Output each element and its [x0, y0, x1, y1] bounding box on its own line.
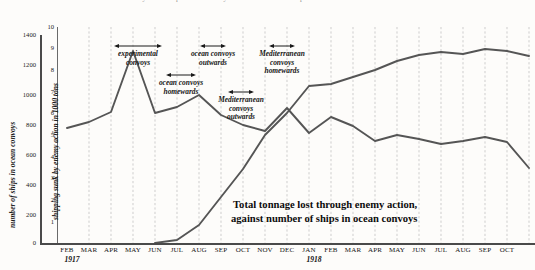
- annotation-line-3: outwards: [227, 112, 255, 121]
- annotation-line-1: ocean convoys: [191, 49, 235, 58]
- annotation-line-1: experimental: [118, 49, 158, 58]
- month-label-sep-1917: SEP: [215, 246, 228, 254]
- month-label-oct-1918: OCT: [500, 246, 514, 254]
- annotation-line-2: convoys: [270, 58, 294, 67]
- bleed-column-2: enemy cruiser squadrons a merry dance: [126, 0, 247, 2]
- bleed-column-3: protection cruisers. The Battle of th: [300, 0, 409, 2]
- month-label-dec-1917: DEC: [280, 246, 294, 254]
- span-arrow-mediterranean-convoys-outwards: [228, 89, 254, 95]
- annotation-mediterranean-convoys-homewards: Mediterranean convoys homewards: [250, 43, 314, 76]
- ships-tick-1000: 1000: [10, 92, 36, 99]
- chart-caption-line-1: Total tonnage lost through enemy action,: [233, 198, 417, 212]
- ships-axis-line: [40, 35, 42, 243]
- convoy-tonnage-chart: 1400 1200 1000 800 600 400 200 0 10 9 8 …: [0, 14, 535, 270]
- month-label-nov-1917: NOV: [257, 246, 273, 254]
- month-label-jul-1917: JUL: [171, 246, 184, 254]
- annotation-line-2: convoys: [229, 104, 253, 113]
- annotation-line-1: ocean convoys: [159, 78, 203, 87]
- annotation-line-3: homewards: [265, 66, 300, 75]
- left-axis-title: number of ships in ocean convoys: [9, 122, 17, 228]
- span-arrow-ocean-convoys-outwards: [200, 43, 226, 49]
- tons-tick-9: 9: [44, 45, 54, 52]
- month-label-jun-1918: JUN: [412, 246, 425, 254]
- month-label-jan-1918: JAN: [302, 246, 315, 254]
- month-label-oct-1917: OCT: [236, 246, 250, 254]
- tons-tick-8: 8: [44, 67, 54, 74]
- ships-tick-0: 0: [10, 240, 36, 247]
- x-axis-baseline: [40, 243, 535, 245]
- span-arrow-ocean-convoys-homewards: [166, 72, 196, 78]
- month-label-may-1917: MAY: [125, 246, 141, 254]
- month-label-mar-1917: MAR: [81, 246, 97, 254]
- span-arrow-experimental-convoys: [114, 43, 162, 49]
- annotation-line-2: convoys: [126, 58, 150, 67]
- month-label-jun-1917: JUN: [148, 246, 161, 254]
- chart-caption-line-2: against number of ships in ocean convoys: [231, 212, 417, 226]
- year-label-1917: 1917: [64, 255, 79, 264]
- month-label-jul-1918: JUL: [435, 246, 448, 254]
- month-label-aug-1917: AUG: [191, 246, 207, 254]
- page-bleed-text: has lost enemy cruiser squadrons a merry…: [0, 0, 535, 12]
- month-label-mar-1918: MAR: [345, 246, 361, 254]
- month-label-sep-1918: SEP: [479, 246, 492, 254]
- tons-tick-10: 10: [44, 24, 54, 31]
- annotation-line-2: outwards: [199, 58, 227, 67]
- month-label-may-1918: MAY: [389, 246, 405, 254]
- ships-tick-1400: 1400: [10, 32, 36, 39]
- month-label-aug-1918: AUG: [455, 246, 471, 254]
- bleed-column-1: has lost: [2, 0, 25, 2]
- annotation-ocean-convoys-outwards: ocean convoys outwards: [184, 43, 242, 67]
- year-label-1918: 1918: [306, 255, 321, 264]
- month-axis: FEB MAR APR MAY JUN JUL AUG SEP OCT NOV …: [58, 246, 535, 268]
- ships-tick-1200: 1200: [10, 62, 36, 69]
- annotation-ocean-convoys-homewards: ocean convoys homewards: [148, 72, 214, 96]
- month-label-apr-1917: APR: [104, 246, 118, 254]
- annotation-line-2: homewards: [164, 87, 199, 96]
- annotation-mediterranean-convoys-outwards: Mediterranean convoys outwards: [210, 89, 272, 122]
- month-label-feb-1917: FEB: [60, 246, 73, 254]
- month-label-apr-1918: APR: [368, 246, 382, 254]
- annotation-line-1: Mediterranean: [259, 49, 305, 58]
- span-arrow-mediterranean-convoys-homewards: [269, 43, 295, 49]
- annotation-line-1: Mediterranean: [218, 95, 264, 104]
- annotation-experimental-convoys: experimental convoys: [105, 43, 171, 67]
- month-label-feb-1918: FEB: [324, 246, 337, 254]
